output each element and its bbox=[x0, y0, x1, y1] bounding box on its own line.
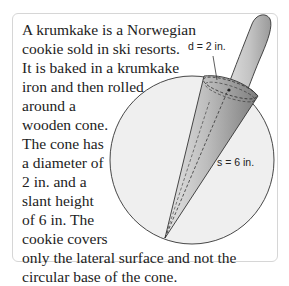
problem-line-3: It is baked in a krumkake bbox=[22, 58, 179, 77]
problem-line-2: cookie sold in ski resorts. bbox=[22, 39, 180, 58]
problem-line-11: of 6 in. The bbox=[22, 210, 94, 229]
problem-line-6: wooden cone. bbox=[22, 115, 108, 134]
problem-line-8: a diameter of bbox=[22, 153, 104, 172]
problem-line-9: 2 in. and a bbox=[22, 172, 87, 191]
problem-line-4: iron and then rolled bbox=[22, 77, 144, 96]
problem-line-1: A krumkake is a Norwegian bbox=[22, 20, 196, 39]
problem-line-14: circular base of the cone. bbox=[22, 267, 177, 286]
problem-line-12: cookie covers bbox=[22, 229, 108, 248]
problem-line-13: only the lateral surface and not the bbox=[22, 248, 236, 267]
slant-height-label: s = 6 in. bbox=[217, 156, 254, 168]
problem-line-10: slant height bbox=[22, 191, 94, 210]
problem-line-7: The cone has bbox=[22, 134, 104, 153]
problem-line-5: around a bbox=[22, 96, 76, 115]
diameter-label: d = 2 in. bbox=[188, 40, 226, 52]
